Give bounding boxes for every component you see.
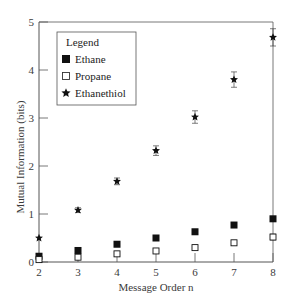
open-square-icon bbox=[63, 73, 70, 80]
legend-item-ethane: Ethane bbox=[75, 53, 106, 65]
propane-point bbox=[75, 254, 81, 260]
propane-point bbox=[192, 245, 198, 251]
ethane-point bbox=[75, 247, 82, 254]
x-tick-label: 8 bbox=[270, 266, 276, 278]
legend-title: Legend bbox=[66, 36, 99, 48]
propane-point bbox=[270, 234, 276, 240]
y-tick-label: 3 bbox=[29, 112, 35, 124]
ethane-point bbox=[114, 241, 121, 248]
x-axis-label: Message Order n bbox=[118, 281, 194, 293]
ethane-point bbox=[153, 235, 160, 242]
y-axis-label: Mutual Information (bits) bbox=[14, 100, 27, 213]
x-tick-label: 2 bbox=[36, 266, 42, 278]
propane-point bbox=[231, 240, 237, 246]
propane-point bbox=[153, 248, 159, 254]
legend-item-propane: Propane bbox=[75, 70, 111, 82]
legend-item-ethanethiol: Ethanethiol bbox=[75, 87, 126, 99]
ethane-point bbox=[270, 215, 277, 222]
y-tick-label: 4 bbox=[29, 64, 35, 76]
propane-point bbox=[36, 257, 42, 263]
ethane-point bbox=[192, 228, 199, 235]
propane-point bbox=[114, 251, 120, 257]
legend: Legend Ethane Propane Ethanethiol bbox=[57, 32, 136, 105]
y-tick-label: 2 bbox=[29, 160, 35, 172]
x-tick-label: 6 bbox=[192, 266, 198, 278]
x-tick-label: 7 bbox=[231, 266, 237, 278]
y-tick-label: 0 bbox=[29, 256, 35, 268]
ethane-point bbox=[231, 222, 238, 229]
x-tick-label: 4 bbox=[114, 266, 120, 278]
x-tick-label: 5 bbox=[153, 266, 159, 278]
y-tick-label: 1 bbox=[29, 208, 35, 220]
x-tick-label: 3 bbox=[75, 266, 81, 278]
mutual-information-chart: 0123452345678 Message Order n Mutual Inf… bbox=[0, 0, 290, 304]
filled-square-icon bbox=[62, 55, 70, 63]
y-tick-label: 5 bbox=[29, 16, 35, 28]
